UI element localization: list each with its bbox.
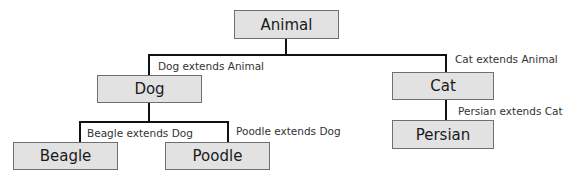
connector-dog-stem [148,102,150,122]
connector-dog-bus [79,121,229,123]
connector-dog-drop [148,54,150,75]
connector-beagle-drop [79,121,81,142]
node-cat-label: Cat [430,77,456,95]
edge-label-beagle-dog: Beagle extends Dog [87,127,193,139]
node-poodle: Poodle [165,142,270,170]
inheritance-diagram: Animal Dog Cat Beagle Poodle Persian Dog… [0,0,564,176]
node-beagle: Beagle [13,142,118,170]
edge-label-cat-animal: Cat extends Animal [455,53,558,65]
connector-persian-stem [445,100,447,120]
node-dog-label: Dog [134,80,164,98]
node-animal: Animal [234,10,339,39]
node-cat: Cat [392,72,494,100]
edge-label-persian-cat: Persian extends Cat [458,105,563,117]
edge-label-dog-animal: Dog extends Animal [158,60,264,72]
connector-cat-drop [445,54,447,72]
node-beagle-label: Beagle [40,147,92,165]
node-persian: Persian [392,120,494,149]
node-animal-label: Animal [261,16,313,34]
node-dog: Dog [97,75,202,103]
node-poodle-label: Poodle [193,147,243,165]
connector-animal-bus [148,54,447,56]
edge-label-poodle-dog: Poodle extends Dog [236,125,341,137]
node-persian-label: Persian [416,126,471,144]
connector-poodle-drop [227,121,229,142]
